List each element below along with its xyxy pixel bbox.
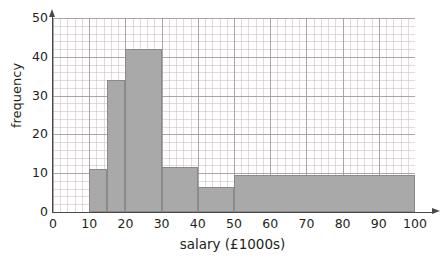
x-tick-label: 20 <box>117 216 133 231</box>
x-axis-title: salary (£1000s) <box>0 236 447 252</box>
x-tick-label: 50 <box>226 216 242 231</box>
x-tick-label: 60 <box>262 216 278 231</box>
x-tick-label: 90 <box>371 216 387 231</box>
histogram-chart: 01020304050 0102030405060708090100 frequ… <box>0 0 447 266</box>
x-tick-label: 100 <box>403 216 427 231</box>
y-axis-title: frequency <box>9 56 24 136</box>
x-tick-label: 0 <box>49 216 57 231</box>
x-tick-label: 10 <box>81 216 97 231</box>
x-tick-label: 40 <box>190 216 206 231</box>
x-tick-label: 80 <box>335 216 351 231</box>
x-tick-label: 70 <box>298 216 314 231</box>
x-axis-title-text: salary (£1000s) <box>180 236 286 252</box>
x-tick-label: 30 <box>154 216 170 231</box>
x-axis-tick-labels: 0102030405060708090100 <box>0 0 447 266</box>
